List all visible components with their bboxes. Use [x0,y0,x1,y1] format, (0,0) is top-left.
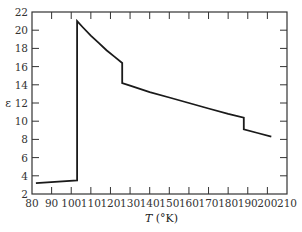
x-tick-label: 200 [257,197,277,209]
x-tick-label: 120 [100,197,120,209]
x-tick-label: 170 [199,197,219,209]
x-axis-title-unit: (°K) [152,212,178,225]
x-tick-label: 130 [120,197,140,209]
y-tick-label: 10 [15,115,28,127]
y-tick-label: 12 [15,97,28,109]
x-tick-label: 110 [81,197,101,209]
x-tick-label: 190 [238,197,258,209]
x-axis-tick-labels: 8090100110120130140150160170180190200210 [25,197,297,209]
x-axis-ticks [52,12,268,194]
x-tick-label: 90 [45,197,58,209]
y-axis-tick-labels: 246810121416182022 [15,6,29,200]
y-tick-label: 6 [21,152,28,164]
x-tick-label: 150 [159,197,179,209]
x-tick-label: 100 [61,197,81,209]
y-tick-label: 22 [15,6,28,18]
y-axis-ticks [32,30,287,176]
x-tick-label: 210 [277,197,297,209]
plot-frame [32,12,287,194]
x-tick-label: 180 [218,197,238,209]
y-axis-title: ε [5,97,11,110]
y-tick-label: 2 [21,188,28,200]
data-line [36,21,271,183]
y-tick-label: 20 [15,24,28,36]
x-axis-title: T (°K) [145,212,178,225]
y-tick-label: 14 [15,79,29,91]
x-tick-label: 140 [140,197,160,209]
x-tick-label: 160 [179,197,199,209]
y-tick-label: 18 [15,42,28,54]
y-tick-label: 4 [21,170,28,182]
y-tick-label: 16 [15,61,29,73]
chart: 8090100110120130140150160170180190200210… [0,0,302,232]
y-tick-label: 8 [21,133,28,145]
